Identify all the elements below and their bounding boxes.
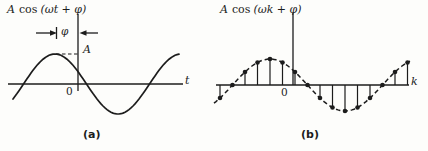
panel-a-origin-label: 0 [66,86,73,97]
panel-a-argument-text: (ωt + φ) [40,3,86,16]
panel-b-origin-label: 0 [281,87,288,98]
panel-a-plot [8,14,183,114]
sample-dot [368,96,373,101]
panel-b-equation-label: Acos(ωk + φ) [220,4,302,15]
phase-phi-label: φ [61,26,68,37]
phase-arrow-left-head-icon [80,30,87,36]
sample-dot [293,70,298,75]
panel-b-argument-text: (ωk + φ) [253,3,301,16]
panel-b-amplitude-symbol: A [220,3,228,16]
figure-continuous-vs-discrete-cosine: Acos(ωt + φ) φ A 0 t (a) Acos(ωk + φ) 0 … [0,0,428,151]
sample-dot [255,60,260,65]
sample-dot [230,83,235,88]
sample-dot [343,109,348,114]
figure-canvas [0,0,428,151]
sample-dot [393,70,398,75]
sample-dot [330,105,335,110]
sample-dot [318,96,323,101]
sample-dot [243,70,248,75]
panel-a-equation-label: Acos(ωt + φ) [7,4,86,15]
amplitude-a-label: A [83,44,91,55]
panel-a-axis-label-t: t [185,75,189,86]
sample-dot [268,57,273,62]
sample-dot [218,96,223,101]
panel-a-amplitude-symbol: A [7,3,15,16]
sample-dot [405,60,410,65]
panel-a-caption: (a) [83,129,100,140]
panel-b-plot [214,13,410,113]
panel-b-cos-text: cos [232,3,250,16]
sample-dot [355,105,360,110]
sample-dot [380,83,385,88]
sample-dot [305,83,310,88]
panel-b-caption: (b) [301,129,319,140]
panel-b-axis-label-k: k [411,76,418,87]
sample-dot [280,60,285,65]
panel-a-cos-text: cos [19,3,37,16]
